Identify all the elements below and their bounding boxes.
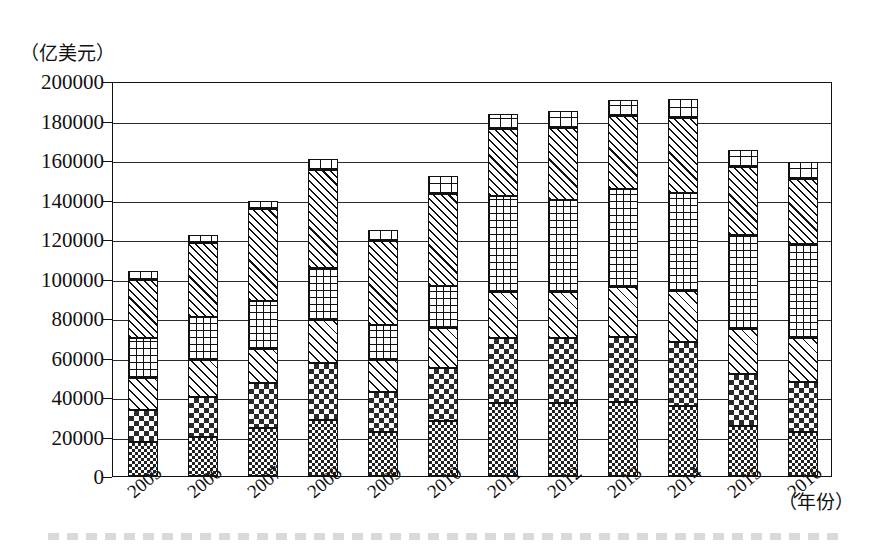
y-axis-tick-mark (103, 82, 112, 83)
y-axis-tick-mark (103, 477, 112, 478)
y-axis-tick-label: 80000 (4, 309, 104, 330)
y-axis-tick-mark (103, 398, 112, 399)
y-axis-tick-mark (103, 359, 112, 360)
y-axis-tick-label: 20000 (4, 427, 104, 448)
y-axis-tick-mark (103, 438, 112, 439)
page-edge-artifact (48, 533, 838, 540)
y-axis-tick-label: 60000 (4, 348, 104, 369)
y-axis-tick-mark (103, 240, 112, 241)
y-axis-tick-mark (103, 319, 112, 320)
chart-page: （亿美元） （年份） 02000040000600008000010000012… (0, 0, 882, 545)
y-axis-tick-label: 40000 (4, 388, 104, 409)
y-axis-tick-mark (103, 201, 112, 202)
y-axis-tick-label: 200000 (4, 72, 104, 93)
y-axis-tick-label: 160000 (4, 151, 104, 172)
y-axis-tick-label: 140000 (4, 190, 104, 211)
y-axis-tick-mark (103, 280, 112, 281)
y-axis-tick-label: 0 (4, 467, 104, 488)
y-axis-tick-label: 180000 (4, 111, 104, 132)
y-axis-tick-label: 100000 (4, 269, 104, 290)
y-axis-tick-mark (103, 161, 112, 162)
y-axis-tick-label: 120000 (4, 230, 104, 251)
y-axis-tick-mark (103, 122, 112, 123)
